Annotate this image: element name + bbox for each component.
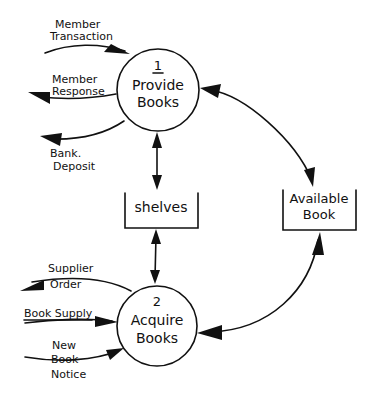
flow-provide-shelves[interactable] xyxy=(152,132,162,190)
arrowhead-left-icon xyxy=(197,325,222,340)
flow-label-bank-deposit-line2: Deposit xyxy=(53,160,96,173)
arrowhead-left-icon xyxy=(28,92,50,104)
flow-label-book-supply: Book Supply xyxy=(24,307,93,320)
data-flow-diagram: 1 Provide Books 2 Acquire Books shelves … xyxy=(0,0,376,401)
flow-curve xyxy=(210,240,318,332)
flow-supplier-order[interactable]: Supplier Order xyxy=(20,262,131,291)
flow-shelves-acquire[interactable] xyxy=(150,229,161,284)
flow-member-response[interactable]: Member Response xyxy=(28,73,116,104)
flow-label-new-book-notice-line3: Notice xyxy=(51,368,86,381)
process-number-2: 2 xyxy=(153,294,161,309)
datastore-available-book-line2: Book xyxy=(303,207,336,222)
flow-bank-deposit[interactable]: Bank. Deposit xyxy=(40,121,124,173)
flow-new-book-notice[interactable]: New Book Notice xyxy=(25,339,124,381)
arrowhead-up-icon xyxy=(152,132,162,148)
flow-label-bank-deposit-line1: Bank. xyxy=(50,147,81,160)
process-label-2-line1: Acquire xyxy=(131,312,184,328)
process-label-1-line2: Books xyxy=(137,94,179,110)
datastore-available-book[interactable]: Available Book xyxy=(283,190,356,230)
arrowhead-left-icon xyxy=(40,133,62,146)
arrowhead-left-icon xyxy=(200,84,221,98)
flow-member-transaction[interactable]: Member Transaction xyxy=(45,18,130,54)
arrowhead-right-icon xyxy=(104,44,130,54)
flow-label-new-book-notice-line1: New xyxy=(52,339,76,352)
process-number-1: 1 xyxy=(154,58,162,73)
flow-provide-available[interactable] xyxy=(200,84,315,187)
flow-label-supplier-order-line2: Order xyxy=(50,278,82,291)
flow-label-member-transaction-line2: Transaction xyxy=(49,30,113,43)
arrowhead-up-icon xyxy=(151,229,161,244)
process-acquire-books[interactable]: 2 Acquire Books xyxy=(117,286,197,366)
flow-label-new-book-notice-line2: Book xyxy=(51,353,79,366)
flow-label-supplier-order-line1: Supplier xyxy=(48,262,94,275)
process-label-1-line1: Provide xyxy=(132,77,184,93)
process-provide-books[interactable]: 1 Provide Books xyxy=(117,49,199,131)
arrowhead-down-icon xyxy=(150,270,160,284)
datastore-available-book-line1: Available xyxy=(290,191,349,206)
datastore-shelves[interactable]: shelves xyxy=(125,193,198,228)
arrowhead-right-icon xyxy=(106,348,124,360)
datastore-shelves-label: shelves xyxy=(135,199,188,215)
process-label-2-line2: Books xyxy=(136,330,178,346)
flow-curve xyxy=(210,90,312,180)
flow-label-member-response-line2: Response xyxy=(52,85,105,98)
arrowhead-down-icon xyxy=(304,167,315,187)
arrowhead-right-icon xyxy=(95,316,118,327)
flow-available-acquire[interactable] xyxy=(197,232,324,340)
flow-curve xyxy=(32,279,131,291)
flow-book-supply[interactable]: Book Supply xyxy=(24,307,118,327)
arrowhead-up-icon xyxy=(312,232,324,255)
arrowhead-down-icon xyxy=(152,175,162,190)
